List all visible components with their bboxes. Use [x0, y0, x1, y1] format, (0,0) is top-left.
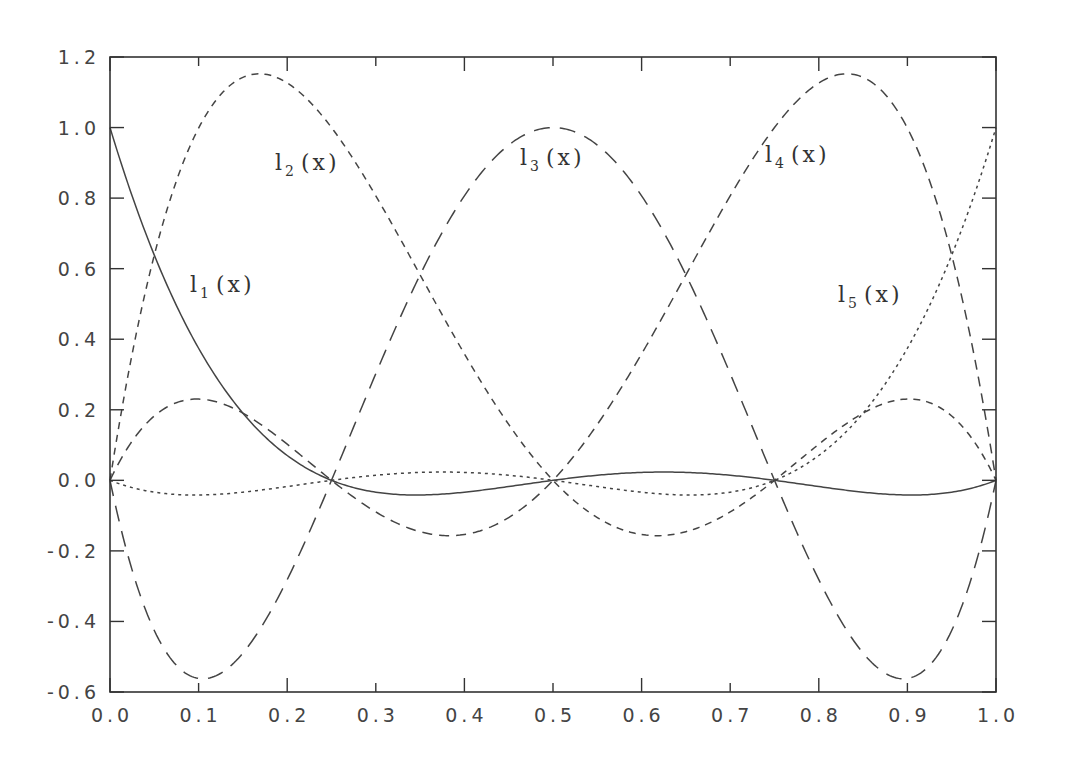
curve-l5x	[110, 128, 996, 495]
label-l2: l2(x)	[275, 150, 340, 179]
x-tick-label: 1.0	[977, 704, 1019, 726]
x-tick-label: 0.7	[711, 704, 753, 726]
lagrange-basis-chart: 0.00.10.20.30.40.50.60.70.80.91.0 -0.6-0…	[0, 0, 1067, 762]
y-tick-label: -0.4	[47, 610, 100, 632]
x-tick-label: 0.8	[800, 704, 842, 726]
y-tick-label: 1.2	[58, 46, 100, 68]
x-tick-label: 0.4	[445, 704, 487, 726]
y-tick-label: 1.0	[58, 117, 100, 139]
x-tick-label: 0.0	[91, 704, 133, 726]
label-l3: l3(x)	[520, 145, 585, 174]
y-tick-label: 0.8	[58, 187, 100, 209]
x-tick-label: 0.5	[534, 704, 576, 726]
x-tick-label: 0.3	[357, 704, 399, 726]
x-tick-label: 0.2	[268, 704, 310, 726]
y-tick-label: 0.0	[58, 469, 100, 491]
curve-l1x	[110, 128, 996, 495]
y-tick-label: -0.6	[47, 681, 100, 703]
label-l5: l5(x)	[838, 282, 903, 311]
x-axis-tick-labels: 0.00.10.20.30.40.50.60.70.80.91.0	[91, 704, 1019, 726]
x-tick-label: 0.6	[622, 704, 664, 726]
label-l4: l4(x)	[765, 142, 830, 171]
x-tick-label: 0.1	[179, 704, 221, 726]
y-tick-label: -0.2	[47, 540, 100, 562]
y-tick-label: 0.6	[58, 258, 100, 280]
y-tick-label: 0.4	[58, 328, 100, 350]
y-axis-tick-labels: -0.6-0.4-0.20.00.20.40.60.81.01.2	[47, 46, 100, 703]
curve-l3x	[110, 128, 996, 679]
label-l1: l1(x)	[190, 272, 255, 301]
y-tick-label: 0.2	[58, 399, 100, 421]
x-tick-label: 0.9	[888, 704, 930, 726]
